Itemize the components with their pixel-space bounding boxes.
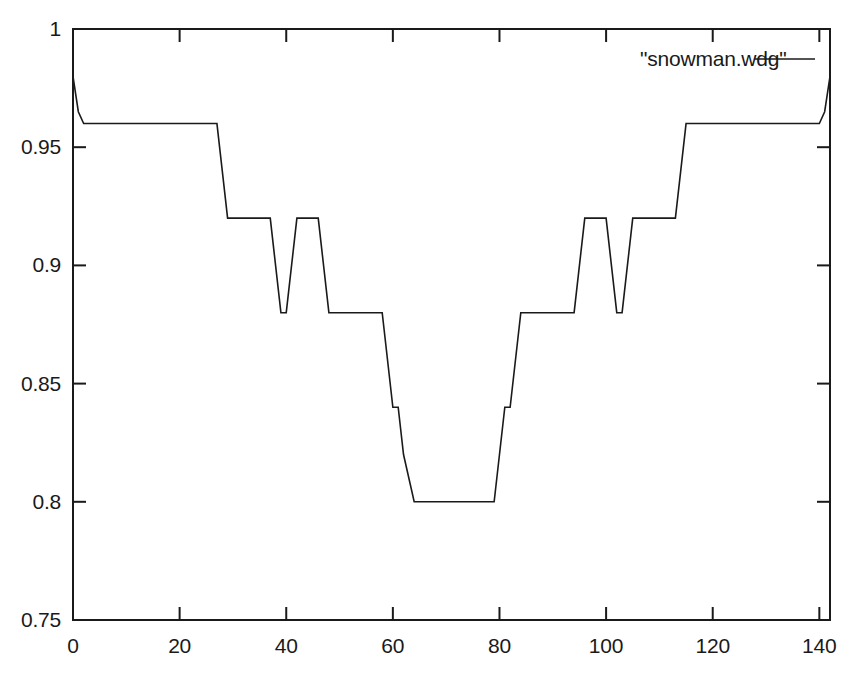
data-line-0 (73, 76, 830, 502)
y-tick-label: 0.8 (32, 490, 61, 514)
y-tick-label: 1 (50, 17, 61, 41)
x-tick-label: 120 (695, 634, 729, 658)
x-tick-label: 40 (275, 634, 298, 658)
y-axis-ticks (73, 29, 830, 620)
x-tick-label: 0 (67, 634, 78, 658)
legend-entry-label: "snowman.wdg" (640, 47, 787, 71)
plot-canvas (0, 0, 855, 678)
y-tick-label: 0.75 (21, 608, 61, 632)
x-tick-label: 140 (802, 634, 836, 658)
x-tick-label: 100 (589, 634, 623, 658)
x-tick-label: 80 (488, 634, 511, 658)
x-tick-label: 20 (168, 634, 191, 658)
plot-frame (73, 29, 830, 620)
chart-figure: 0.750.80.850.90.951 020406080100120140 "… (0, 0, 855, 678)
data-series-group (73, 76, 830, 502)
y-tick-label: 0.9 (32, 253, 61, 277)
y-tick-label: 0.85 (21, 372, 61, 396)
y-tick-label: 0.95 (21, 135, 61, 159)
x-axis-ticks (73, 29, 819, 620)
x-tick-label: 60 (381, 634, 404, 658)
